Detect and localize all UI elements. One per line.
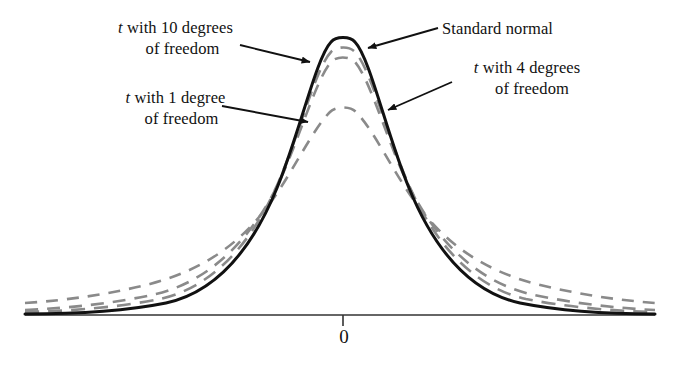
x-axis-label-zero: 0	[333, 326, 355, 348]
annotation-label-standard-normal: Standard normal	[442, 18, 553, 39]
annotation-line2-t4: of freedom	[437, 78, 617, 99]
annotation-line1-t4: with 4 degrees	[478, 58, 580, 77]
annotation-line1-normal: Standard normal	[442, 19, 553, 38]
annotation-line2-t1: of freedom	[88, 108, 263, 129]
annotation-line1-t10: with 10 degrees	[123, 18, 233, 37]
annotation-label-t-df10: t with 10 degrees of freedom	[88, 17, 263, 59]
t-distribution-figure: t with 10 degrees of freedom t with 1 de…	[0, 0, 679, 369]
arrow-to-standard-normal	[368, 28, 438, 48]
annotation-label-t-df4: t with 4 degrees of freedom	[437, 57, 617, 99]
curve-t-df1	[25, 108, 655, 304]
annotation-label-t-df1: t with 1 degree of freedom	[88, 87, 263, 129]
annotation-line1-t1: with 1 degree	[130, 88, 225, 107]
annotation-line2-t10: of freedom	[88, 38, 263, 59]
